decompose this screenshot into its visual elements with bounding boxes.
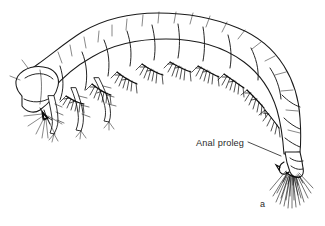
thoracic-legs <box>48 78 116 142</box>
gill-tuft <box>192 66 219 86</box>
hindleg-claw <box>104 122 114 130</box>
gill-tuft <box>218 74 244 97</box>
seta <box>46 119 48 138</box>
anal-proleg-leader-line <box>248 142 281 156</box>
seta <box>24 114 42 116</box>
abdominal-gills <box>60 62 280 137</box>
foreleg-claw <box>49 134 58 142</box>
anal-proleg-label: Anal proleg <box>196 138 244 148</box>
gill-tuft <box>241 90 266 117</box>
seta <box>22 60 28 68</box>
midleg <box>71 88 83 131</box>
figure-letter-label: a <box>260 199 265 209</box>
foreleg <box>48 96 58 134</box>
gill-tuft <box>136 64 163 84</box>
anal-proleg <box>270 152 313 208</box>
larva-body <box>16 13 301 154</box>
seta <box>42 119 45 138</box>
midleg-claw <box>76 131 86 139</box>
figure-container: Anal proleg a <box>0 0 325 226</box>
anal-setal-brush <box>270 171 313 208</box>
larva-illustration: Anal proleg a <box>0 0 325 226</box>
gill-tuft <box>259 110 280 137</box>
gill-tuft <box>164 62 191 81</box>
gill-tuft <box>111 72 137 93</box>
